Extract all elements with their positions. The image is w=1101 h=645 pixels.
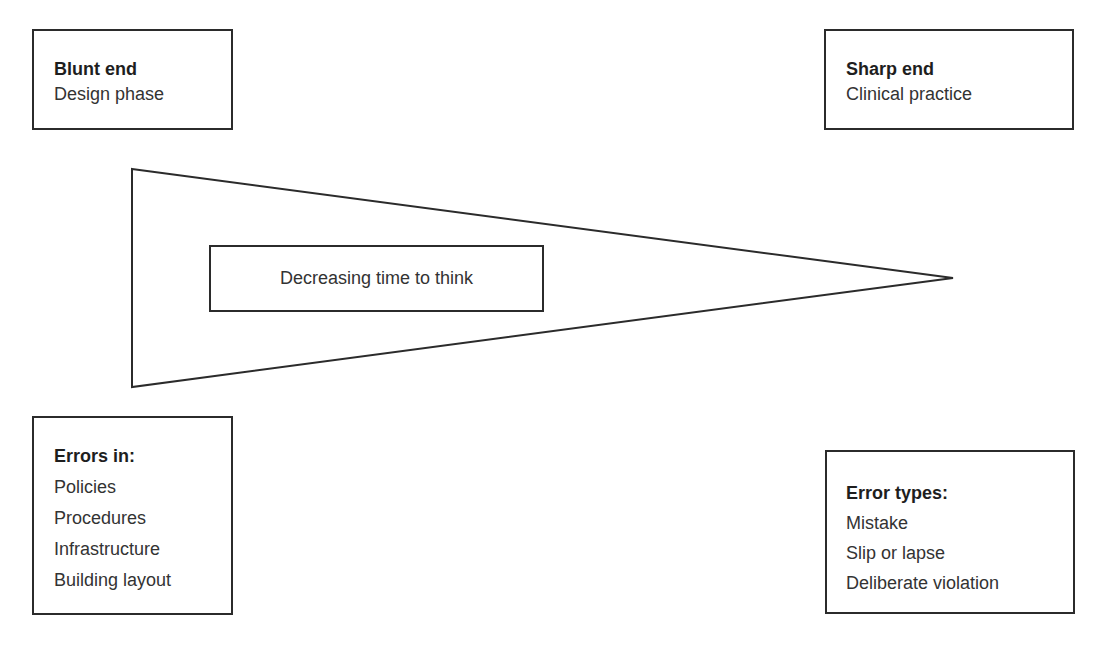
errors-in-box: Errors in: Policies Procedures Infrastru… xyxy=(32,416,233,615)
errors-in-item: Infrastructure xyxy=(54,534,231,565)
error-types-item: Slip or lapse xyxy=(846,538,1073,568)
errors-in-title: Errors in: xyxy=(54,441,231,472)
errors-in-item: Policies xyxy=(54,472,231,503)
wedge-label: Decreasing time to think xyxy=(280,268,473,289)
error-types-title: Error types: xyxy=(846,478,1073,508)
wedge-label-box: Decreasing time to think xyxy=(209,245,544,312)
error-types-item: Mistake xyxy=(846,508,1073,538)
errors-in-item: Procedures xyxy=(54,503,231,534)
error-types-box: Error types: Mistake Slip or lapse Delib… xyxy=(825,450,1075,614)
error-types-item: Deliberate violation xyxy=(846,568,1073,598)
errors-in-item: Building layout xyxy=(54,565,231,596)
